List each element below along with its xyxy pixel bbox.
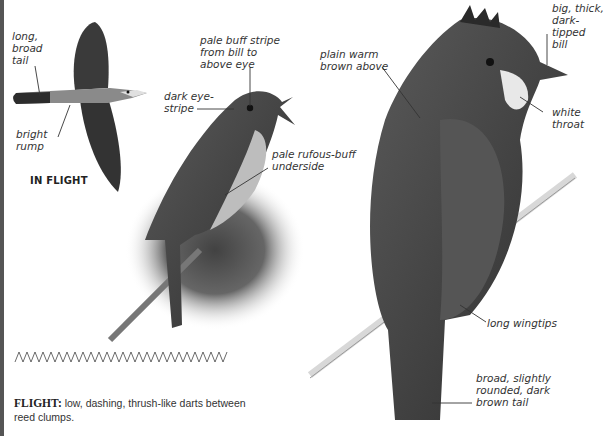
singing-bird-illustration xyxy=(110,91,305,340)
label-white-throat: white throat xyxy=(552,106,584,130)
flight-description: FLIGHT: low, dashing, thrush-like darts … xyxy=(14,396,264,424)
label-long-wingtips: long wingtips xyxy=(487,317,557,329)
flight-path-zigzag xyxy=(15,352,227,362)
label-pale-buff-stripe: pale buff stripe from bill to above eye xyxy=(200,34,280,70)
label-big-thick-bill: big, thick, dark-tipped bill xyxy=(552,2,608,50)
bird-identification-plate: long, broad tail bright rump IN FLIGHT p… xyxy=(0,0,608,436)
in-flight-title: IN FLIGHT xyxy=(30,175,88,186)
bird-illustrations xyxy=(0,0,608,436)
label-pale-rufous-buff-underside: pale rufous-buff underside xyxy=(272,148,356,172)
label-bright-rump: bright rump xyxy=(16,128,47,152)
label-broad-rounded-tail: broad, slightly rounded, dark brown tail xyxy=(476,372,551,408)
label-plain-warm-brown-above: plain warm brown above xyxy=(320,48,388,72)
flight-heading: FLIGHT: xyxy=(14,397,62,409)
label-dark-eye-stripe: dark eye- stripe xyxy=(164,90,214,114)
label-long-broad-tail: long, broad tail xyxy=(12,30,43,66)
